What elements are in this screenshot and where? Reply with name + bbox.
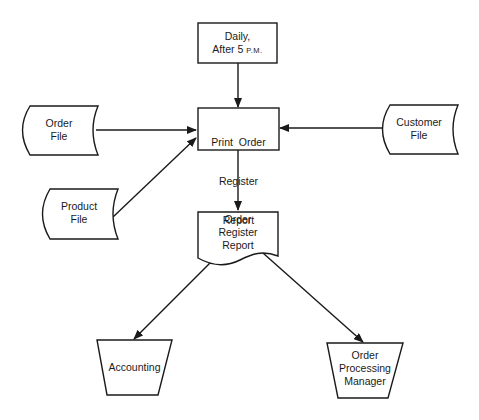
report-label: Order Register Report	[198, 213, 278, 252]
customer-file-label: Customer File	[385, 116, 453, 142]
manager-label: Order Processing Manager	[327, 349, 403, 388]
product-file-label: Product File	[45, 200, 113, 226]
customer-file-line-2: File	[385, 129, 453, 142]
manager-line-1: Order	[327, 349, 403, 362]
accounting-label: Accounting	[97, 361, 172, 374]
report-line-3: Report	[198, 239, 278, 252]
trigger-time: After 5	[212, 43, 246, 55]
order-file-label: Order File	[25, 117, 93, 143]
process-line-2: Register	[198, 175, 279, 188]
manager-line-3: Manager	[327, 375, 403, 388]
trigger-line-1: Daily,	[198, 30, 277, 43]
edge-report-to-accounting	[134, 260, 213, 339]
order-file-line-2: File	[25, 130, 93, 143]
trigger-line-2: After 5 P.M.	[198, 43, 277, 57]
trigger-pm: P.M.	[246, 46, 262, 55]
customer-file-line-1: Customer	[385, 116, 453, 129]
manager-line-2: Processing	[327, 362, 403, 375]
order-file-line-1: Order	[25, 117, 93, 130]
edge-product-file-to-process	[113, 138, 196, 217]
report-line-1: Order	[198, 213, 278, 226]
product-file-line-2: File	[45, 213, 113, 226]
report-line-2: Register	[198, 226, 278, 239]
trigger-label: Daily, After 5 P.M.	[198, 30, 277, 57]
process-line-1: Print Order	[198, 136, 279, 149]
edge-report-to-manager	[263, 253, 363, 342]
product-file-line-1: Product	[45, 200, 113, 213]
accounting-line-1: Accounting	[97, 361, 172, 374]
